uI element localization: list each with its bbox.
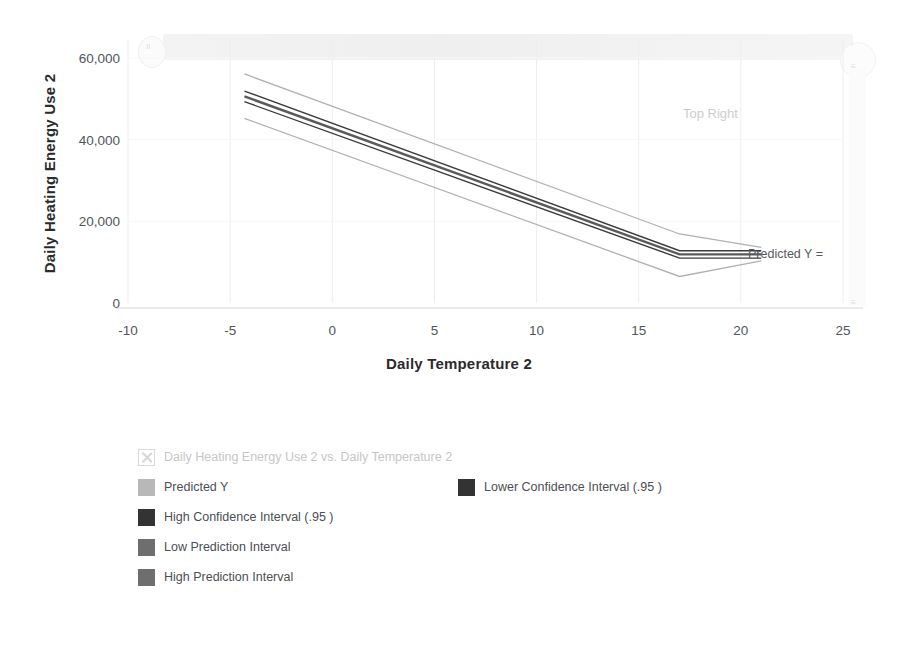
x-tick-label: -5 — [224, 323, 236, 338]
legend-swatch — [138, 569, 155, 586]
x-tick-label: 25 — [835, 323, 850, 338]
legend-item[interactable]: Predicted Y — [138, 479, 458, 496]
legend-row: High Prediction Interval — [138, 562, 858, 592]
gridlines — [128, 40, 843, 303]
y-tick-label: 60,000 — [58, 51, 120, 66]
legend-item[interactable]: Lower Confidence Interval (.95 ) — [458, 479, 662, 496]
y-tick-label: 40,000 — [58, 132, 120, 147]
x-tick-label: 0 — [329, 323, 337, 338]
legend-swatch — [138, 539, 155, 556]
legend-row: High Confidence Interval (.95 ) — [138, 502, 858, 532]
x-tick-label: 15 — [631, 323, 646, 338]
chart-area: II ▫ ≡ ≡ 020,00040,00060,000 -10-5051015… — [0, 0, 918, 400]
legend-item-label: Low Prediction Interval — [164, 540, 290, 554]
legend-item-label: High Prediction Interval — [164, 570, 293, 584]
top-right-annotation: Top Right — [683, 106, 738, 121]
legend-item-label: Predicted Y — [164, 480, 228, 494]
x-axis-title: Daily Temperature 2 — [0, 355, 918, 372]
legend-row: Predicted YLower Confidence Interval (.9… — [138, 472, 858, 502]
legend-row: Low Prediction Interval — [138, 532, 858, 562]
legend-item-label: High Confidence Interval (.95 ) — [164, 510, 334, 524]
legend-title-row: Daily Heating Energy Use 2 vs. Daily Tem… — [138, 442, 858, 472]
legend-item[interactable]: Low Prediction Interval — [138, 539, 458, 556]
x-tick-label: 10 — [529, 323, 544, 338]
legend-item[interactable]: High Confidence Interval (.95 ) — [138, 509, 458, 526]
plot-canvas — [0, 0, 918, 400]
x-tick-label: -10 — [118, 323, 138, 338]
chart-legend: Daily Heating Energy Use 2 vs. Daily Tem… — [138, 442, 858, 592]
y-tick-label: 0 — [58, 296, 120, 311]
x-marker-icon — [138, 449, 155, 466]
y-axis-title: Daily Heating Energy Use 2 — [41, 59, 58, 289]
y-tick-label: 20,000 — [58, 214, 120, 229]
legend-swatch — [138, 479, 155, 496]
x-tick-label: 5 — [431, 323, 439, 338]
legend-title-label: Daily Heating Energy Use 2 vs. Daily Tem… — [164, 450, 452, 464]
legend-item[interactable]: High Prediction Interval — [138, 569, 458, 586]
series-lines — [244, 74, 761, 277]
legend-swatch — [138, 509, 155, 526]
legend-swatch — [458, 479, 475, 496]
predicted-y-annotation: Predicted Y = — [748, 247, 823, 261]
x-tick-label: 20 — [733, 323, 748, 338]
legend-rows: Predicted YLower Confidence Interval (.9… — [138, 472, 858, 592]
legend-item-label: Lower Confidence Interval (.95 ) — [484, 480, 662, 494]
legend-title-cell: Daily Heating Energy Use 2 vs. Daily Tem… — [138, 449, 452, 466]
